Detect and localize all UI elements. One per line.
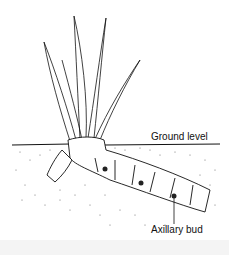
ground-level-label: Ground level: [151, 131, 208, 142]
bud-2: [139, 181, 144, 186]
ground-line: [12, 144, 220, 145]
axillary-bud-label: Axillary bud: [151, 224, 203, 235]
bud-1: [103, 167, 108, 172]
rhizome-diagram: [0, 0, 229, 255]
rhizome: [47, 137, 210, 212]
leaves: [44, 16, 140, 141]
bud-3: [172, 194, 177, 199]
